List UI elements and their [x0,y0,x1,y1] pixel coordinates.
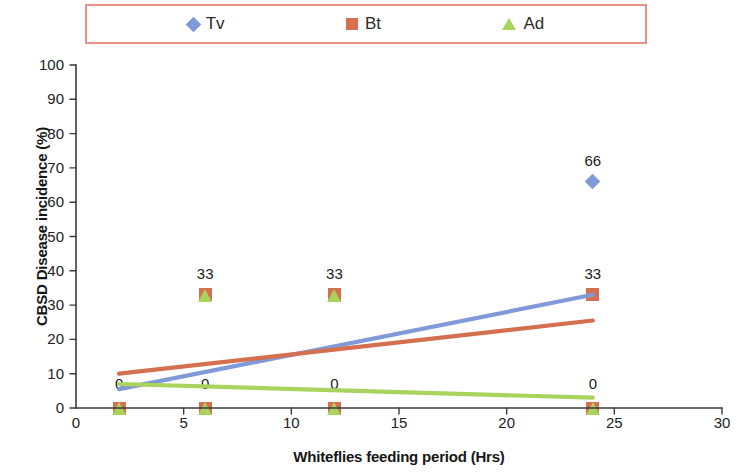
data-point-label: 0 [314,375,354,392]
data-point-ad [112,402,126,415]
y-tick-label: 70 [30,159,64,176]
trendline-bt [119,321,593,374]
x-tick-label: 0 [56,414,96,431]
x-tick-label: 20 [487,414,527,431]
data-point-label: 0 [185,375,225,392]
y-tick-label: 20 [30,330,64,347]
data-point-bt [586,288,599,301]
square-marker-icon [346,18,358,30]
data-point-label: 0 [573,375,613,392]
chart-container: TvBtAd CBSD Disease incidence (%) Whitef… [0,0,743,475]
data-point-ad [198,289,212,302]
y-tick-label: 10 [30,365,64,382]
data-point-label: 33 [573,265,613,282]
data-point-label: 66 [573,152,613,169]
x-tick-label: 5 [164,414,204,431]
data-point-ad [327,289,341,302]
y-tick-label: 30 [30,296,64,313]
data-point-label: 33 [185,265,225,282]
y-tick-label: 60 [30,193,64,210]
triangle-marker-icon [502,18,516,30]
data-point-ad [586,402,600,415]
legend-entry-ad[interactable]: Ad [502,14,544,34]
x-axis-title: Whiteflies feeding period (Hrs) [76,448,722,465]
legend-entries: TvBtAd [87,6,645,42]
chart-legend: TvBtAd [85,4,647,44]
legend-label: Tv [206,14,225,34]
x-tick-label: 25 [594,414,634,431]
data-point-tv [585,174,601,190]
x-tick-label: 30 [702,414,742,431]
data-point-label: 33 [314,265,354,282]
x-tick-label: 15 [379,414,419,431]
y-tick-label: 40 [30,262,64,279]
y-tick-label: 100 [30,56,64,73]
y-tick-label: 90 [30,90,64,107]
data-point-ad [327,402,341,415]
y-tick-label: 50 [30,228,64,245]
x-tick-label: 10 [271,414,311,431]
legend-entry-bt[interactable]: Bt [346,14,381,34]
diamond-marker-icon [185,16,201,32]
data-point-ad [198,402,212,415]
legend-label: Bt [365,14,381,34]
data-point-label: 0 [99,375,139,392]
legend-label: Ad [523,14,544,34]
y-tick-label: 80 [30,125,64,142]
legend-entry-tv[interactable]: Tv [188,14,225,34]
